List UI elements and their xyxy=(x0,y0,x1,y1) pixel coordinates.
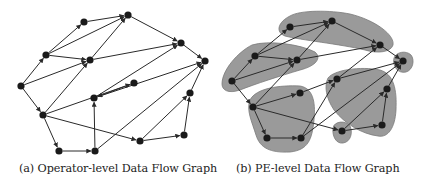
node-B xyxy=(42,51,49,58)
edge-F-G xyxy=(184,45,202,58)
edge-I-G xyxy=(97,62,201,97)
edge-F-G xyxy=(383,47,400,59)
node-B xyxy=(251,52,258,59)
edge-I-F xyxy=(97,45,177,96)
node-F xyxy=(177,39,184,46)
node-F xyxy=(376,41,383,48)
node-I xyxy=(90,94,97,101)
node-M xyxy=(91,147,98,154)
node-O xyxy=(180,131,187,138)
edge-A-E xyxy=(24,61,86,84)
node-A xyxy=(17,82,24,89)
node-N xyxy=(136,137,143,144)
node-O xyxy=(378,121,385,128)
edge-M-I xyxy=(94,102,95,147)
caption-operator-level: (a) Operator-level Data Flow Graph xyxy=(19,162,217,175)
node-J xyxy=(249,103,256,110)
edge-N-O xyxy=(144,136,180,141)
node-C xyxy=(286,23,293,30)
data-flow-figure xyxy=(0,0,427,160)
node-J xyxy=(39,111,46,118)
node-C xyxy=(80,18,87,25)
edge-O-K xyxy=(185,97,190,131)
node-L xyxy=(55,147,62,154)
node-H xyxy=(130,79,137,86)
edge-K-G xyxy=(389,65,401,86)
caption-pe-level: (b) PE-level Data Flow Graph xyxy=(236,162,400,175)
node-K xyxy=(186,89,193,96)
pe-level-graph xyxy=(222,11,413,152)
cluster-pe-left xyxy=(222,43,318,92)
edge-C-D xyxy=(88,16,124,22)
node-M xyxy=(297,134,304,141)
edge-D-F xyxy=(131,17,177,41)
node-L xyxy=(263,134,270,141)
node-E xyxy=(86,56,93,63)
edge-N-K xyxy=(143,96,187,139)
edge-J-L xyxy=(44,118,57,147)
node-H xyxy=(296,89,303,96)
edge-B-E xyxy=(50,55,86,59)
pe-clusters xyxy=(222,11,413,152)
node-N xyxy=(338,127,345,134)
node-I xyxy=(333,75,340,82)
node-D xyxy=(124,11,131,18)
node-K xyxy=(383,85,390,92)
edge-B-C xyxy=(49,25,81,53)
node-D xyxy=(328,17,335,24)
edge-A-B xyxy=(23,58,43,83)
edge-E-F xyxy=(94,44,177,60)
graph-a-edges xyxy=(23,16,203,151)
node-A xyxy=(228,77,235,84)
edge-A-J xyxy=(23,89,40,112)
edge-J-E xyxy=(45,63,87,112)
operator-level-graph xyxy=(17,11,208,154)
edge-K-G xyxy=(192,65,204,90)
node-E xyxy=(293,56,300,63)
node-G xyxy=(399,57,406,64)
node-G xyxy=(201,57,208,64)
